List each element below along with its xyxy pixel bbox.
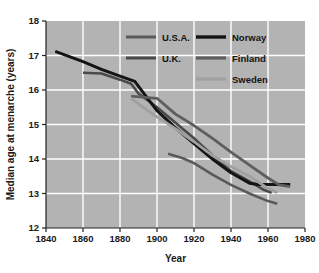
x-tick-label: 1860 [72,233,93,244]
x-tick-label: 1980 [294,233,315,244]
legend-label: U.K. [162,53,181,64]
x-tick-label: 1840 [35,233,56,244]
y-axis-title: Median age at menarche (years) [5,49,16,201]
y-tick-label: 17 [28,50,39,61]
y-tick-label: 15 [28,119,39,130]
y-tick-label: 14 [28,153,39,164]
y-tick-label: 16 [28,84,39,95]
legend-label: Norway [232,32,267,43]
y-tick-label: 18 [28,15,39,26]
x-tick-label: 1900 [146,233,167,244]
chart-figure: 18401860188019001920194019601980 1213141… [0,0,319,273]
legend-label: Finland [232,53,266,64]
x-tick-label: 1940 [220,233,241,244]
x-tick-label: 1880 [109,233,130,244]
x-tick-label: 1920 [183,233,204,244]
x-axis-title: Year [165,253,186,264]
y-tick-label: 13 [28,188,39,199]
legend-label: U.S.A. [162,32,190,43]
legend-label: Sweden [232,74,268,85]
x-tick-label: 1960 [257,233,278,244]
y-tick-label: 12 [28,222,39,233]
menarche-age-line-chart: 18401860188019001920194019601980 1213141… [0,0,319,273]
